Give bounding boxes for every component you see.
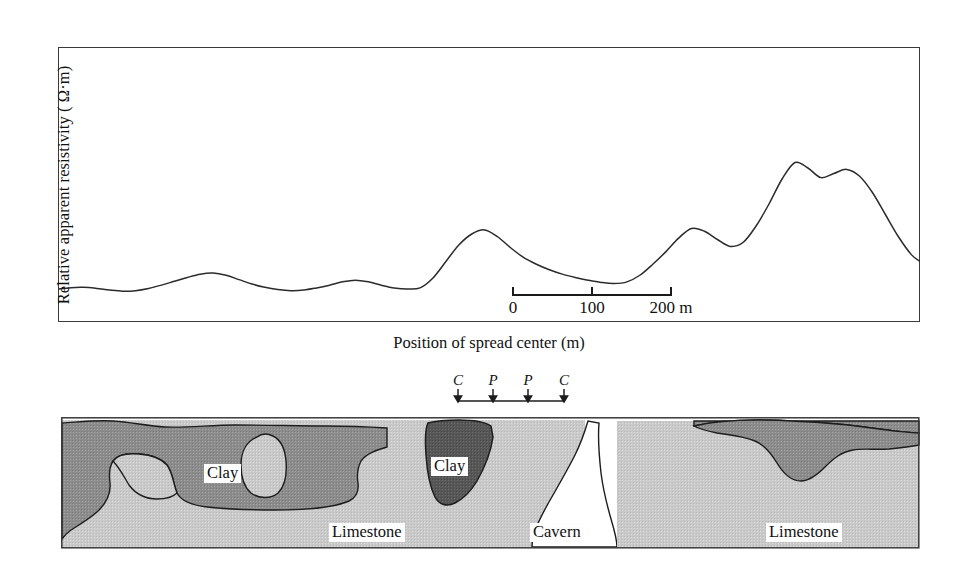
y-axis-label: Relative apparent resistivity ( Ω·m) [54,0,74,435]
scale-bar: 0 100 200 m [512,284,674,324]
label-limestone-left: Limestone [329,523,405,542]
electrode-array-graphic [452,372,570,408]
x-axis-label: Position of spread center (m) [58,333,920,353]
label-clay-left: Clay [204,464,241,483]
limestone-lens [241,434,286,497]
electrode-label-p1: P [485,372,501,389]
section-left-block [62,420,585,547]
resistivity-curve [58,47,920,322]
scale-label-200: 200 m [640,298,702,318]
electrode-label-c1: C [450,372,466,389]
scale-tick-0 [512,287,514,295]
scale-label-0: 0 [498,298,528,318]
scale-label-100: 100 [568,298,616,318]
electrode-array: C P P C [452,372,570,408]
scale-unit-label: m [679,298,692,317]
electrode-label-c2: C [556,372,572,389]
figure-root: 0 100 200 m Relative apparent resistivit… [0,0,955,578]
label-cavern: Cavern [530,523,584,542]
label-clay-pocket: Clay [431,457,468,476]
curve-path [58,162,920,291]
label-limestone-right: Limestone [766,523,842,542]
electrode-label-p2: P [520,372,536,389]
geologic-cross-section: Clay Clay Limestone Cavern Limestone [61,417,920,549]
resistivity-chart: 0 100 200 m Relative apparent resistivit… [58,47,920,322]
scale-tick-200 [670,287,672,295]
scale-tick-100 [591,287,593,295]
scale-label-200-value: 200 [650,298,676,317]
